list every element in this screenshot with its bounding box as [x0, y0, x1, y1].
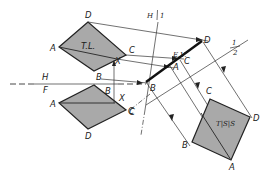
aux2-vertex-b: B: [182, 140, 188, 150]
true-size-shape-label: T|S|S: [216, 120, 235, 128]
edge-view-label: E.V.: [172, 51, 186, 59]
top-vertex-a: A: [49, 43, 56, 53]
fold-label-12-1: 1: [232, 39, 236, 47]
front-view: A B C D X: [49, 85, 134, 141]
top-vertex-d: D: [85, 10, 92, 20]
aux1-vertex-b: B: [150, 83, 156, 93]
fold-line-h1-dashed: [141, 110, 145, 135]
fold-label-h1-h: H: [146, 12, 154, 20]
top-vertex-b: B: [96, 72, 102, 82]
aux2-vertex-a: A: [228, 162, 235, 172]
top-vertex-c: C: [129, 45, 135, 55]
front-vertex-a: A: [49, 99, 56, 109]
fold-divider-h1: [157, 10, 158, 20]
front-vertex-b: B: [105, 86, 111, 96]
aux1-vertex-d: D: [204, 35, 211, 45]
aux-view-2: C D B A T|S|S: [182, 86, 260, 172]
top-view: D A C B X T.L.: [49, 10, 135, 82]
aux2-vertex-d: D: [253, 113, 260, 123]
auxiliary-view-diagram: H F H 1 1 2 D A C B X T.L. A B C D X: [0, 0, 277, 180]
fold-label-f: F: [43, 85, 48, 95]
fold-label-h1-1: 1: [160, 12, 164, 20]
front-view-face: [59, 85, 126, 129]
front-vertex-x: X: [118, 93, 125, 103]
aux2-face: [192, 99, 250, 160]
true-length-label: T.L.: [81, 41, 95, 51]
fold-label-12-2: 2: [232, 49, 238, 57]
front-vertex-d: D: [85, 131, 92, 141]
fold-label-h: H: [42, 72, 49, 82]
misc-label-c: C: [129, 107, 135, 117]
aux2-vertex-c: C: [206, 86, 212, 96]
